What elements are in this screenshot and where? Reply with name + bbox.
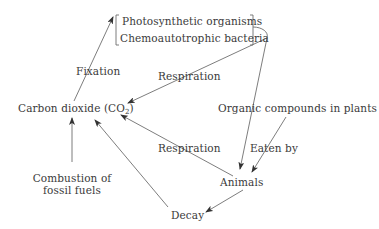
label-respiration-animals: Respiration [158,142,221,154]
carbon-cycle-diagram: Photosynthetic organisms Chemoautotrophi… [0,0,379,229]
combustion-line-1: Combustion of [30,172,114,184]
co2-label: Carbon dioxide (CO [18,102,125,114]
combustion-line-2: fossil fuels [30,184,114,196]
edge-animals-decay [206,190,243,212]
node-chemoautotrophic-bacteria: Chemoautotrophic bacteria [120,32,269,44]
node-photosynthetic-organisms: Photosynthetic organisms [122,15,262,27]
node-combustion-fossil-fuels: Combustion of fossil fuels [30,172,114,196]
label-fixation: Fixation [76,65,120,77]
node-decay: Decay [171,209,204,221]
label-respiration-producers: Respiration [158,70,221,82]
label-eaten-by: Eaten by [250,142,298,154]
bracket-left [116,15,119,45]
node-animals: Animals [220,176,263,188]
edge-fixation [74,17,113,101]
node-carbon-dioxide: Carbon dioxide (CO2) [18,102,134,114]
co2-close-paren: ) [130,102,134,114]
node-organic-compounds: Organic compounds in plants [218,102,377,114]
